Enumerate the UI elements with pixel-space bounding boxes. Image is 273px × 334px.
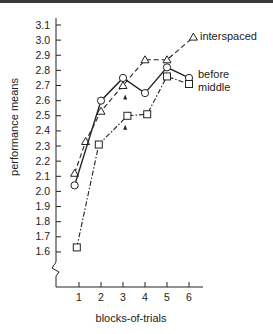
arrow-up-icon [123,95,127,100]
x-tick-label: 5 [164,291,170,303]
circle-marker [97,97,104,104]
y-tick-label: 3.1 [35,19,50,31]
series-line-before [75,67,189,185]
y-tick-label: 2.0 [35,185,50,197]
axes: 1.61.71.81.92.02.12.22.32.42.52.62.72.82… [35,18,203,303]
x-tick-label: 3 [120,291,126,303]
x-tick-label: 6 [186,291,192,303]
y-tick-label: 2.3 [35,140,50,152]
y-axis-title: performance means [8,78,20,176]
triangle-marker [189,33,197,40]
line-chart: 1.61.71.81.92.02.12.22.32.42.52.62.72.82… [0,0,273,334]
circle-marker [119,74,126,81]
circle-marker [141,89,148,96]
y-tick-label: 1.6 [35,245,50,257]
y-tick-label: 1.9 [35,200,50,212]
square-marker [95,141,102,148]
y-tick-label: 1.8 [35,215,50,227]
y-tick-label: 2.4 [35,124,50,136]
square-marker [73,244,80,251]
square-marker [144,111,151,118]
x-tick-label: 1 [76,291,82,303]
series-line-interspaced [75,37,194,173]
series-group [71,33,198,251]
y-tick-label: 2.9 [35,49,50,61]
legend-before: before [198,68,229,80]
y-tick-label: 3.0 [35,34,50,46]
axis-break-icon [52,262,59,276]
y-tick-label: 2.7 [35,79,50,91]
x-axis-title: blocks-of-trials [96,312,167,324]
square-marker [186,81,193,88]
y-tick-label: 2.6 [35,94,50,106]
square-marker [124,112,131,119]
legend-middle: middle [198,81,230,93]
square-marker [164,73,171,80]
y-tick-label: 2.8 [35,64,50,76]
circle-marker [71,182,78,189]
arrow-up-icon [123,125,127,130]
y-tick-label: 2.5 [35,109,50,121]
x-tick-label: 2 [98,291,104,303]
x-tick-label: 4 [142,291,148,303]
circle-marker [163,64,170,71]
y-tick-label: 1.7 [35,230,50,242]
series-line-middle [77,76,189,247]
y-tick-label: 2.1 [35,170,50,182]
y-tick-label: 2.2 [35,155,50,167]
legend-interspaced: interspaced [200,30,257,42]
